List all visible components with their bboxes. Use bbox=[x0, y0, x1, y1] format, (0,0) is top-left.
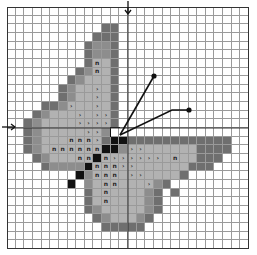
stitch-cell: › bbox=[137, 154, 146, 163]
stitch-cell bbox=[128, 59, 137, 68]
stitch-cell bbox=[50, 223, 59, 232]
stitch-cell bbox=[180, 206, 189, 215]
stitch-cell bbox=[68, 50, 77, 59]
stitch-cell bbox=[223, 206, 232, 215]
stitch-cell bbox=[206, 111, 215, 120]
stitch-cell: › bbox=[85, 119, 94, 128]
stitch-cell bbox=[214, 145, 223, 154]
stitch-cell bbox=[59, 223, 68, 232]
stitch-cell bbox=[180, 232, 189, 241]
stitch-cell bbox=[163, 223, 172, 232]
stitch-cell bbox=[68, 128, 77, 137]
stitch-cell bbox=[16, 171, 25, 180]
stitch-cell bbox=[76, 24, 85, 33]
stitch-cell bbox=[59, 128, 68, 137]
stitch-cell bbox=[180, 180, 189, 189]
stitch-cell bbox=[119, 59, 128, 68]
stitch-cell bbox=[50, 85, 59, 94]
stitch-cell bbox=[24, 111, 33, 120]
stitch-cell bbox=[102, 240, 111, 249]
stitch-cell bbox=[171, 68, 180, 77]
stitch-cell bbox=[76, 128, 85, 137]
stitch-cell bbox=[232, 85, 241, 94]
stitch-cell bbox=[16, 240, 25, 249]
stitch-cell bbox=[42, 128, 51, 137]
stitch-cell bbox=[128, 42, 137, 51]
stitch-cell bbox=[189, 189, 198, 198]
stitch-cell bbox=[189, 223, 198, 232]
stitch-cell bbox=[85, 33, 94, 42]
stitch-cell bbox=[232, 240, 241, 249]
stitch-cell bbox=[240, 137, 249, 146]
stitch-cell bbox=[42, 232, 51, 241]
stitch-cell bbox=[180, 42, 189, 51]
stitch-cell bbox=[119, 171, 128, 180]
stitch-cell bbox=[16, 214, 25, 223]
stitch-cell bbox=[76, 50, 85, 59]
stitch-cell: n bbox=[102, 189, 111, 198]
stitch-cell bbox=[232, 180, 241, 189]
stitch-cell bbox=[137, 240, 146, 249]
stitch-cell bbox=[189, 50, 198, 59]
stitch-cell bbox=[7, 197, 16, 206]
stitch-cell bbox=[189, 68, 198, 77]
stitch-cell bbox=[163, 240, 172, 249]
stitch-cell bbox=[163, 214, 172, 223]
stitch-cell bbox=[33, 42, 42, 51]
stitch-cell bbox=[24, 206, 33, 215]
stitch-cell bbox=[189, 145, 198, 154]
stitch-cell bbox=[7, 189, 16, 198]
stitch-cell bbox=[128, 68, 137, 77]
stitch-cell bbox=[232, 50, 241, 59]
stitch-cell bbox=[223, 33, 232, 42]
stitch-cell bbox=[128, 111, 137, 120]
stitch-cell: n bbox=[102, 180, 111, 189]
stitch-cell bbox=[232, 223, 241, 232]
stitch-cell bbox=[24, 33, 33, 42]
stitch-cell bbox=[59, 50, 68, 59]
stitch-cell bbox=[171, 232, 180, 241]
stitch-cell: › bbox=[154, 154, 163, 163]
stitch-cell bbox=[189, 7, 198, 16]
stitch-cell bbox=[33, 223, 42, 232]
stitch-cell bbox=[50, 163, 59, 172]
stitch-cell bbox=[76, 59, 85, 68]
stitch-cell: › bbox=[93, 111, 102, 120]
stitch-cell bbox=[206, 59, 215, 68]
stitch-cell bbox=[59, 240, 68, 249]
stitch-cell bbox=[232, 111, 241, 120]
stitch-cell bbox=[24, 240, 33, 249]
stitch-cell bbox=[206, 33, 215, 42]
stitch-cell bbox=[180, 171, 189, 180]
stitch-cell bbox=[154, 102, 163, 111]
stitch-cell bbox=[33, 33, 42, 42]
stitch-cell bbox=[145, 59, 154, 68]
stitch-cell bbox=[16, 145, 25, 154]
stitch-cell bbox=[240, 180, 249, 189]
stitch-cell bbox=[16, 119, 25, 128]
stitch-cell bbox=[163, 163, 172, 172]
stitch-cell bbox=[68, 171, 77, 180]
stitch-cell bbox=[24, 223, 33, 232]
stitch-cell bbox=[171, 223, 180, 232]
stitch-cell: › bbox=[111, 154, 120, 163]
stitch-cell bbox=[154, 85, 163, 94]
stitch-cell bbox=[111, 189, 120, 198]
stitch-cell bbox=[33, 137, 42, 146]
stitch-cell bbox=[128, 189, 137, 198]
stitch-cell bbox=[145, 76, 154, 85]
stitch-cell bbox=[128, 119, 137, 128]
stitch-cell: n bbox=[85, 137, 94, 146]
stitch-cell bbox=[50, 33, 59, 42]
stitch-cell bbox=[111, 50, 120, 59]
stitch-cell bbox=[214, 232, 223, 241]
stitch-cell bbox=[154, 24, 163, 33]
stitch-cell bbox=[7, 102, 16, 111]
stitch-cell bbox=[180, 16, 189, 25]
stitch-cell bbox=[214, 93, 223, 102]
stitch-cell bbox=[76, 214, 85, 223]
stitch-cell bbox=[16, 206, 25, 215]
stitch-cell bbox=[24, 7, 33, 16]
stitch-cell bbox=[16, 197, 25, 206]
stitch-cell: n bbox=[76, 137, 85, 146]
